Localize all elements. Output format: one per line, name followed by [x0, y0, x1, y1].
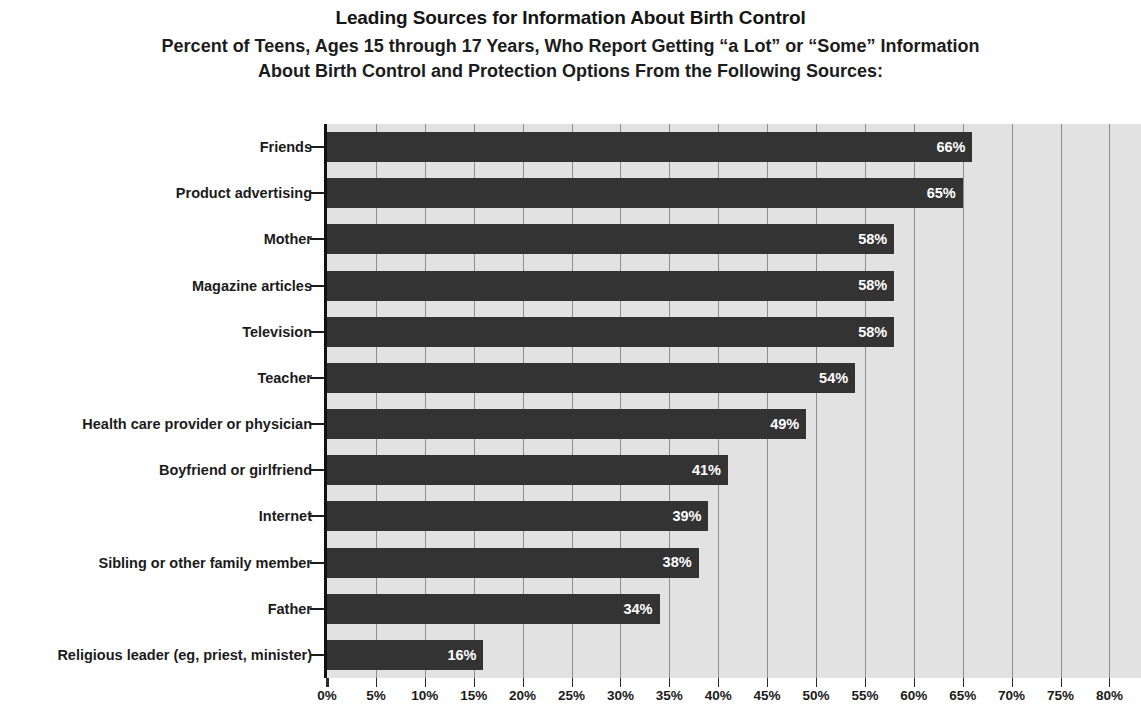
bar-value-label-11: 16% [447, 648, 476, 663]
gridline-75 [1061, 124, 1062, 678]
bar-8[interactable]: 39% [327, 501, 708, 531]
bar-2[interactable]: 58% [327, 224, 894, 254]
bar-7[interactable]: 41% [327, 455, 728, 485]
y-tick-7 [310, 469, 325, 471]
x-tick-75 [1061, 678, 1062, 687]
bar-11[interactable]: 16% [327, 640, 483, 670]
category-label-7: Boyfriend or girlfriend [159, 463, 312, 478]
bar-3[interactable]: 58% [327, 271, 894, 301]
category-label-1: Product advertising [176, 186, 312, 201]
chart-header: Leading Sources for Information About Bi… [0, 0, 1141, 84]
y-tick-3 [310, 285, 325, 287]
chart-subtitle-line-1: Percent of Teens, Ages 15 through 17 Yea… [0, 34, 1141, 59]
category-label-9: Sibling or other family member [98, 556, 312, 571]
bar-value-label-7: 41% [692, 463, 721, 478]
y-tick-10 [310, 608, 325, 610]
x-axis: 0%5%10%15%20%25%30%35%40%45%50%55%60%65%… [0, 678, 1141, 713]
y-tick-6 [310, 423, 325, 425]
gridline-80 [1109, 124, 1110, 678]
bar-10[interactable]: 34% [327, 594, 660, 624]
x-tick-label-55: 55% [851, 689, 878, 703]
category-label-2: Mother [264, 232, 312, 247]
x-tick-5 [376, 678, 377, 687]
bar-value-label-5: 54% [819, 371, 848, 386]
x-tick-70 [1012, 678, 1013, 687]
y-tick-5 [310, 377, 325, 379]
category-label-5: Teacher [257, 371, 312, 386]
x-tick-label-10: 10% [411, 689, 438, 703]
x-tick-15 [474, 678, 475, 687]
bar-value-label-0: 66% [936, 140, 965, 155]
y-tick-2 [310, 238, 325, 240]
x-tick-label-5: 5% [366, 689, 386, 703]
x-tick-20 [523, 678, 524, 687]
x-tick-35 [669, 678, 670, 687]
bar-6[interactable]: 49% [327, 409, 806, 439]
x-tick-label-35: 35% [656, 689, 683, 703]
x-tick-label-25: 25% [558, 689, 585, 703]
category-label-11: Religious leader (eg, priest, minister) [57, 648, 312, 663]
category-label-10: Father [268, 602, 312, 617]
x-tick-0 [326, 678, 329, 687]
x-tick-60 [914, 678, 915, 687]
x-tick-label-30: 30% [607, 689, 634, 703]
x-tick-label-0: 0% [317, 689, 337, 703]
bar-0[interactable]: 66% [327, 132, 972, 162]
x-tick-80 [1109, 678, 1110, 687]
x-tick-65 [963, 678, 964, 687]
x-tick-label-60: 60% [900, 689, 927, 703]
page-title: Leading Sources for Information About Bi… [0, 6, 1141, 30]
x-tick-label-75: 75% [1047, 689, 1074, 703]
x-tick-30 [620, 678, 621, 687]
category-label-6: Health care provider or physician [82, 417, 312, 432]
bar-value-label-2: 58% [858, 232, 887, 247]
bar-value-label-4: 58% [858, 325, 887, 340]
gridline-65 [963, 124, 964, 678]
bar-value-label-6: 49% [770, 417, 799, 432]
x-tick-label-15: 15% [460, 689, 487, 703]
bar-value-label-10: 34% [623, 602, 652, 617]
bar-1[interactable]: 65% [327, 178, 963, 208]
x-tick-label-80: 80% [1096, 689, 1123, 703]
x-tick-label-70: 70% [998, 689, 1025, 703]
gridline-70 [1012, 124, 1013, 678]
x-tick-45 [767, 678, 768, 687]
category-label-3: Magazine articles [192, 279, 312, 294]
category-label-8: Internet [259, 509, 312, 524]
bar-value-label-1: 65% [927, 186, 956, 201]
x-tick-10 [425, 678, 426, 687]
x-tick-40 [718, 678, 719, 687]
y-tick-1 [310, 192, 325, 194]
bar-9[interactable]: 38% [327, 548, 699, 578]
x-tick-25 [572, 678, 573, 687]
bar-5[interactable]: 54% [327, 363, 855, 393]
x-tick-label-20: 20% [509, 689, 536, 703]
y-tick-0 [310, 146, 325, 148]
y-tick-11 [310, 654, 325, 656]
bar-4[interactable]: 58% [327, 317, 894, 347]
x-tick-55 [865, 678, 866, 687]
x-tick-label-40: 40% [705, 689, 732, 703]
x-tick-label-45: 45% [754, 689, 781, 703]
x-tick-label-50: 50% [802, 689, 829, 703]
chart-subtitle: Percent of Teens, Ages 15 through 17 Yea… [0, 34, 1141, 84]
chart-subtitle-line-2: About Birth Control and Protection Optio… [0, 59, 1141, 84]
bar-chart: Friends66%Product advertising65%Mother58… [0, 124, 1141, 713]
bar-value-label-8: 39% [672, 509, 701, 524]
x-tick-label-65: 65% [949, 689, 976, 703]
x-tick-50 [816, 678, 817, 687]
category-label-0: Friends [260, 140, 312, 155]
bar-value-label-3: 58% [858, 278, 887, 293]
y-tick-4 [310, 331, 325, 333]
y-tick-9 [310, 562, 325, 564]
category-label-4: Television [242, 325, 312, 340]
bar-value-label-9: 38% [663, 555, 692, 570]
y-tick-8 [310, 515, 325, 517]
